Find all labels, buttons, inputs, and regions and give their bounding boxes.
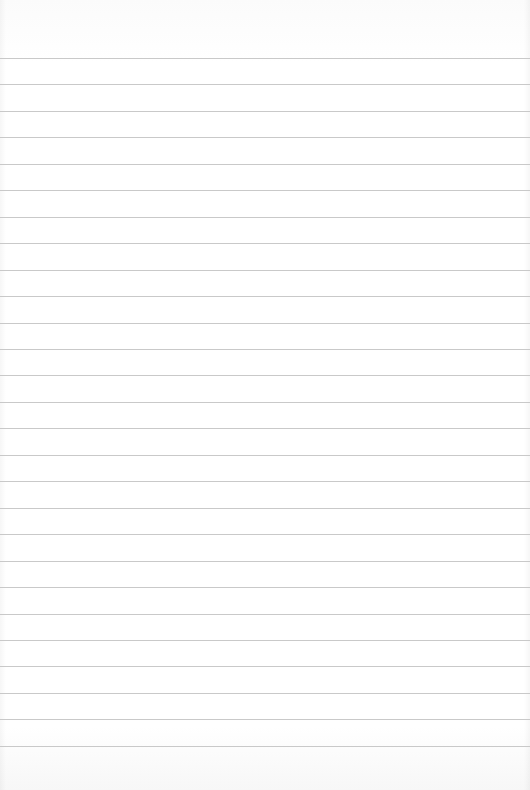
- ruled-line: [0, 296, 530, 297]
- ruled-line: [0, 375, 530, 376]
- ruled-line: [0, 84, 530, 85]
- ruled-line: [0, 323, 530, 324]
- ruled-line: [0, 614, 530, 615]
- ruled-line: [0, 508, 530, 509]
- ruled-line: [0, 746, 530, 747]
- ruled-line: [0, 243, 530, 244]
- ruled-line: [0, 349, 530, 350]
- right-edge-shadow: [524, 0, 530, 790]
- left-edge-shadow: [0, 0, 6, 790]
- ruled-line: [0, 693, 530, 694]
- ruled-line: [0, 111, 530, 112]
- ruled-line: [0, 455, 530, 456]
- ruled-line: [0, 666, 530, 667]
- ruled-line: [0, 640, 530, 641]
- ruled-line: [0, 481, 530, 482]
- ruled-line: [0, 270, 530, 271]
- ruled-line: [0, 428, 530, 429]
- ruled-line: [0, 561, 530, 562]
- ruled-line: [0, 190, 530, 191]
- ruled-line: [0, 719, 530, 720]
- ruled-line: [0, 402, 530, 403]
- ruled-line: [0, 164, 530, 165]
- ruled-line: [0, 137, 530, 138]
- ruled-line: [0, 587, 530, 588]
- lined-paper-sheet: [0, 0, 530, 790]
- ruled-line: [0, 534, 530, 535]
- ruled-line: [0, 217, 530, 218]
- ruled-line: [0, 58, 530, 59]
